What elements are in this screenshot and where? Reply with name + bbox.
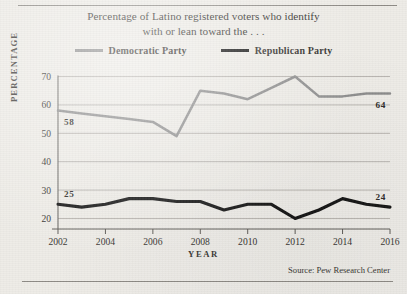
x-tick-labels: 20022004200620082010201220142016: [48, 236, 399, 247]
svg-text:2004: 2004: [96, 236, 115, 247]
x-tick-marks: [58, 229, 390, 234]
svg-text:2002: 2002: [48, 236, 67, 247]
y-gridlines: [58, 77, 390, 219]
y-axis-label: PERCENTAGE: [9, 32, 19, 102]
svg-text:50: 50: [41, 128, 51, 139]
svg-text:25: 25: [64, 189, 75, 199]
svg-text:2014: 2014: [333, 236, 352, 247]
svg-text:2016: 2016: [380, 236, 399, 247]
data-point-labels: 58642524: [64, 100, 386, 203]
svg-text:30: 30: [41, 185, 51, 196]
svg-text:58: 58: [64, 117, 75, 127]
svg-text:2008: 2008: [191, 236, 210, 247]
svg-text:2010: 2010: [238, 236, 257, 247]
svg-text:2012: 2012: [286, 236, 305, 247]
svg-text:24: 24: [375, 192, 386, 202]
bottom-divider-rule: [22, 281, 393, 282]
y-tick-labels: 203040506070: [41, 71, 51, 224]
svg-text:40: 40: [41, 156, 51, 167]
svg-text:20: 20: [41, 213, 51, 224]
svg-text:2006: 2006: [143, 236, 162, 247]
data-series-lines: [58, 77, 390, 219]
source-attribution: Source: Pew Research Center: [288, 265, 390, 275]
x-axis-label: YEAR: [0, 249, 407, 259]
chart-figure: Percentage of Latino registered voters w…: [0, 0, 407, 294]
svg-text:64: 64: [375, 100, 386, 110]
svg-text:70: 70: [41, 71, 51, 82]
svg-text:60: 60: [41, 99, 51, 110]
